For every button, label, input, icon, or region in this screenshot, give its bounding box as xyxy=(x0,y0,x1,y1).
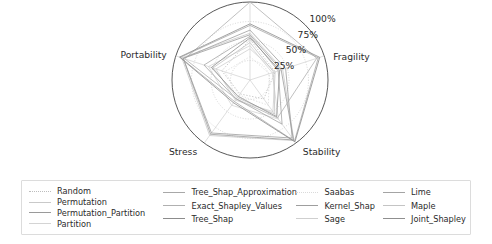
legend-label: Lime xyxy=(411,188,431,196)
legend-line-swatch xyxy=(29,223,51,224)
radial-tick-75: 75% xyxy=(298,29,319,40)
legend-item-permutation-partition[interactable]: Permutation_Partition xyxy=(29,208,163,219)
series-partition xyxy=(208,46,278,119)
legend-label: Tree_Shap xyxy=(191,215,233,223)
legend-label: Maple xyxy=(411,202,436,210)
legend-label: Random xyxy=(57,187,91,195)
legend-item-maple[interactable]: Maple xyxy=(383,199,463,212)
legend-columns: RandomPermutationPermutation_PartitionPa… xyxy=(29,186,463,229)
legend-column-2: SaabasKernel_ShapSage xyxy=(296,186,383,229)
series-saabas xyxy=(225,57,270,106)
series-exact-shapley-values xyxy=(185,2,317,118)
series-joint-shapley xyxy=(211,38,279,117)
chart-legend: RandomPermutationPermutation_PartitionPa… xyxy=(21,180,471,235)
legend-label: Joint_Shapley xyxy=(411,215,466,223)
legend-label: Saabas xyxy=(324,188,354,196)
legend-line-swatch xyxy=(29,202,51,203)
legend-label: Partition xyxy=(57,220,91,228)
axis-label-fragility: Fragility xyxy=(333,51,370,62)
legend-line-swatch xyxy=(163,192,185,193)
legend-line-swatch xyxy=(163,205,185,206)
radial-tick-25: 25% xyxy=(274,60,295,71)
legend-item-sage[interactable]: Sage xyxy=(296,212,383,225)
series-tree-shap xyxy=(180,24,320,142)
legend-item-permutation[interactable]: Permutation xyxy=(29,197,163,208)
legend-column-3: LimeMapleJoint_Shapley xyxy=(383,186,463,229)
legend-line-swatch xyxy=(383,192,405,193)
radar-series-layer xyxy=(180,2,320,142)
legend-line-swatch xyxy=(383,218,405,219)
legend-item-tree-shap[interactable]: Tree_Shap xyxy=(163,212,296,225)
legend-item-tree-shap-approximation[interactable]: Tree_Shap_Approximation xyxy=(163,186,296,199)
legend-column-0: RandomPermutationPermutation_PartitionPa… xyxy=(29,186,163,229)
legend-item-kernel-shap[interactable]: Kernel_Shap xyxy=(296,199,383,212)
radar-svg: 25%50%75%100%FragilityStabilityStressPor… xyxy=(0,0,492,182)
legend-item-joint-shapley[interactable]: Joint_Shapley xyxy=(383,212,463,225)
legend-line-swatch xyxy=(296,192,318,193)
legend-item-partition[interactable]: Partition xyxy=(29,218,163,229)
radial-tick-100: 100% xyxy=(309,13,336,24)
radar-chart-figure: 25%50%75%100%FragilityStabilityStressPor… xyxy=(0,0,492,244)
legend-item-saabas[interactable]: Saabas xyxy=(296,186,383,199)
axis-label-stability: Stability xyxy=(303,146,341,157)
legend-line-swatch xyxy=(29,212,51,213)
legend-line-swatch xyxy=(296,205,318,206)
legend-line-swatch xyxy=(29,191,51,192)
legend-label: Permutation xyxy=(57,198,107,206)
legend-item-lime[interactable]: Lime xyxy=(383,186,463,199)
legend-item-exact-shapley-values[interactable]: Exact_Shapley_Values xyxy=(163,199,296,212)
legend-label: Tree_Shap_Approximation xyxy=(191,188,297,196)
legend-label: Sage xyxy=(324,215,344,223)
legend-line-swatch xyxy=(383,205,405,206)
legend-label: Kernel_Shap xyxy=(324,202,374,210)
axis-label-stress: Stress xyxy=(169,146,197,157)
radial-tick-50: 50% xyxy=(286,44,307,55)
axis-label-portability: Portability xyxy=(120,49,167,60)
legend-line-swatch xyxy=(296,218,318,219)
legend-item-random[interactable]: Random xyxy=(29,186,163,197)
radar-plot-area: 25%50%75%100%FragilityStabilityStressPor… xyxy=(0,0,492,182)
legend-line-swatch xyxy=(163,218,185,219)
legend-column-1: Tree_Shap_ApproximationExact_Shapley_Val… xyxy=(163,186,296,229)
legend-label: Exact_Shapley_Values xyxy=(191,202,281,210)
legend-label: Permutation_Partition xyxy=(57,209,145,217)
